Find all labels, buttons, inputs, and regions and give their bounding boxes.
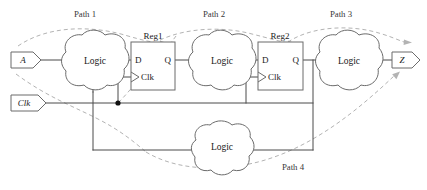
reg2-pin-clk-label: Clk	[268, 72, 282, 82]
reg1-pin-q-label: Q	[165, 55, 172, 65]
path-3-arrowhead	[404, 40, 412, 46]
reg1-box[interactable]	[131, 42, 175, 90]
reg2-pin-d-label: D	[262, 55, 269, 65]
register-reg1[interactable]: Reg1 D Q Clk	[131, 31, 175, 90]
path-2-label: Path 2	[203, 9, 225, 19]
clk-junction-dot	[115, 100, 120, 105]
terminal-z-shape[interactable]	[392, 52, 420, 68]
path-1-label: Path 1	[74, 9, 96, 19]
reg1-pin-d-label: D	[135, 55, 142, 65]
logic-block-4-label: Logic	[211, 142, 233, 152]
path-3-label: Path 3	[330, 9, 353, 19]
logic-block-1-label: Logic	[84, 56, 106, 66]
register-reg2[interactable]: Reg2 D Q Clk	[258, 31, 303, 90]
path-4-label: Path 4	[282, 162, 305, 172]
reg2-label: Reg2	[271, 31, 290, 41]
terminal-a-shape[interactable]	[11, 52, 41, 68]
terminal-input-clk[interactable]: Clk	[11, 95, 46, 111]
terminal-output-z[interactable]: Z	[392, 52, 420, 68]
terminal-clk-label: Clk	[18, 98, 32, 108]
circuit-diagram: Logic Logic Logic Logic Reg1 D Q Clk Reg…	[0, 0, 427, 190]
path-4-arrowhead	[392, 72, 400, 80]
terminal-a-label: A	[19, 55, 26, 65]
reg2-box[interactable]	[258, 42, 303, 90]
diagram-canvas: Logic Logic Logic Logic Reg1 D Q Clk Reg…	[0, 0, 427, 190]
logic-block-2-label: Logic	[211, 56, 233, 66]
reg1-pin-clk-label: Clk	[141, 72, 155, 82]
reg2-pin-q-label: Q	[293, 55, 300, 65]
logic-block-3-label: Logic	[338, 56, 360, 66]
reg1-label: Reg1	[144, 31, 163, 41]
terminal-input-a[interactable]: A	[11, 52, 41, 68]
